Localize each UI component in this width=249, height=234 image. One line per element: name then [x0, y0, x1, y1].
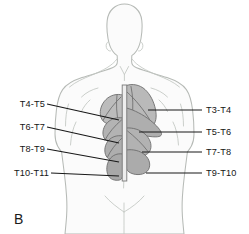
label-t3-t4: T3-T4 [206, 105, 231, 115]
dermatome-figure-panel-b: T4-T5 T6-T7 T8-T9 T10-T11 T3-T4 T5-T6 T7… [0, 0, 249, 234]
label-t10-t11: T10-T11 [14, 168, 49, 178]
label-t4-t5: T4-T5 [20, 99, 45, 109]
label-t6-t7: T6-T7 [20, 122, 45, 132]
label-t7-t8: T7-T8 [206, 147, 231, 157]
label-t8-t9: T8-T9 [20, 144, 45, 154]
label-t9-t10: T9-T10 [206, 168, 237, 178]
vertebral-column-strip [122, 85, 127, 181]
dermatome-diagram-svg: T4-T5 T6-T7 T8-T9 T10-T11 T3-T4 T5-T6 T7… [0, 0, 249, 234]
panel-letter-b: B [14, 211, 23, 227]
label-t5-t6: T5-T6 [206, 127, 231, 137]
